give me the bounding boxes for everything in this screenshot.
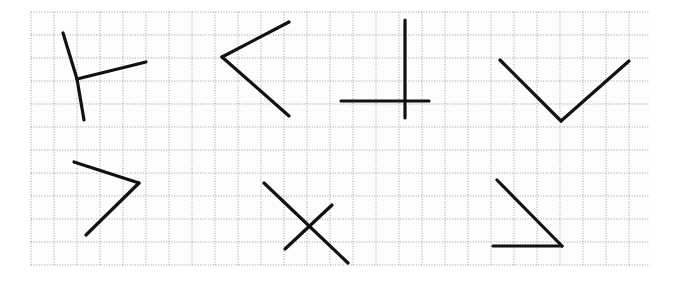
worksheet-canvas (0, 0, 674, 284)
figures-drawing-area (0, 0, 674, 284)
graph-paper-background (31, 12, 650, 265)
